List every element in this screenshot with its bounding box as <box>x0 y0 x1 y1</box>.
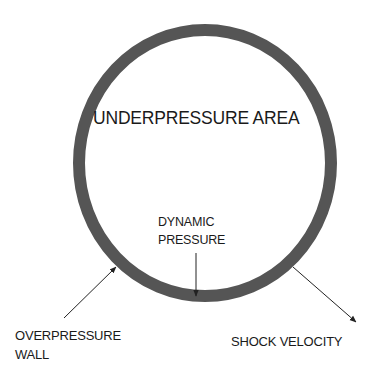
overpressure-wall-ring <box>79 30 331 296</box>
shock-velocity-label: SHOCK VELOCITY <box>231 335 342 348</box>
overpressure-wall-label-line2: WALL <box>15 348 49 361</box>
underpressure-area-label: UNDERPRESSURE AREA <box>93 110 299 128</box>
dynamic-pressure-label-line2: PRESSURE <box>158 234 225 247</box>
blast-wave-diagram <box>0 0 379 377</box>
shock-velocity-arrow <box>293 267 356 322</box>
dynamic-pressure-label-line1: DYNAMIC <box>158 216 214 229</box>
overpressure-wall-label-line1: OVERPRESSURE <box>15 329 121 342</box>
overpressure-wall-arrow <box>64 267 116 318</box>
